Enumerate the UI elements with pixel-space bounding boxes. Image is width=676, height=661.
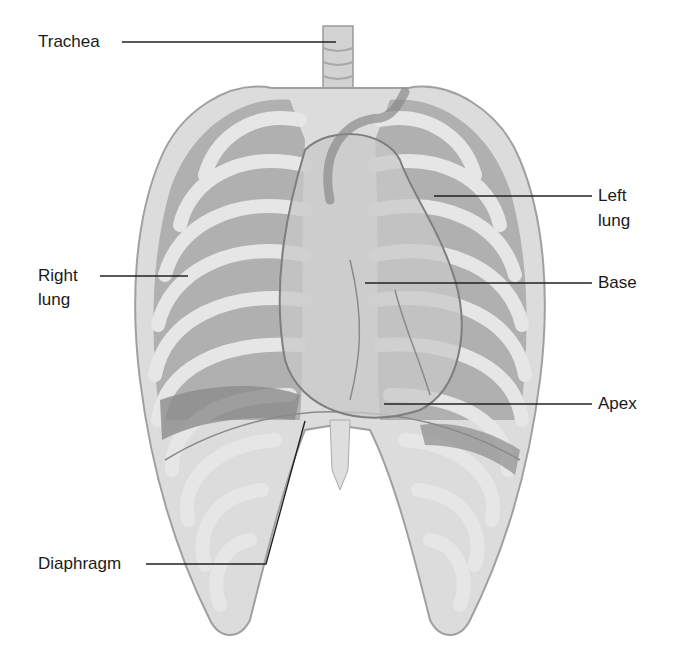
label-right-lung-line2: lung: [38, 287, 70, 312]
label-apex: Apex: [598, 391, 637, 416]
label-left-lung-line2: lung: [598, 208, 630, 233]
label-right-lung-line1: Right: [38, 263, 78, 288]
label-left-lung-line1: Left: [598, 183, 626, 208]
label-diaphragm: Diaphragm: [38, 551, 121, 576]
label-base: Base: [598, 270, 637, 295]
label-trachea: Trachea: [38, 29, 100, 54]
